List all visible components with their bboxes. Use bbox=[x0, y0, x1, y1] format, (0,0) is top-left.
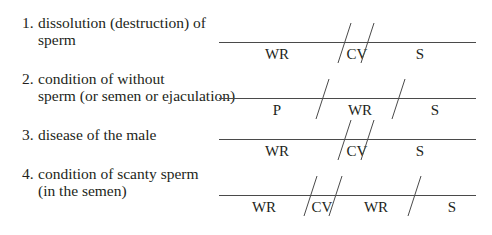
item-number: 4. bbox=[22, 166, 34, 182]
definition-line-2: (in the semen) bbox=[38, 183, 127, 200]
item-number: 3. bbox=[22, 127, 34, 143]
segment-word-root-2: WR bbox=[364, 199, 388, 215]
segment-suffix: S bbox=[431, 102, 439, 118]
definition-line-1: dissolution (destruction) of bbox=[38, 15, 206, 32]
segment-combining-vowel: CV bbox=[347, 143, 368, 159]
segment-word-root: WR bbox=[348, 102, 372, 118]
definition-line-1: condition of scanty sperm bbox=[38, 166, 199, 183]
item-number: 1. bbox=[22, 15, 34, 31]
definition-line-1: condition of without bbox=[38, 71, 165, 88]
segment-suffix: S bbox=[448, 199, 456, 215]
segment-combining-vowel: CV bbox=[347, 46, 368, 62]
segment-suffix: S bbox=[416, 143, 424, 159]
segment-prefix: P bbox=[273, 102, 281, 118]
segment-suffix: S bbox=[416, 46, 424, 62]
item-number: 2. bbox=[22, 71, 34, 87]
segment-word-root: WR bbox=[265, 46, 289, 62]
segment-word-root: WR bbox=[265, 143, 289, 159]
answer-line[interactable] bbox=[219, 139, 476, 140]
definition-line-2: sperm (or semen or ejaculation) bbox=[38, 88, 235, 105]
definition-line-1: disease of the male bbox=[38, 127, 156, 144]
segment-word-root: WR bbox=[252, 199, 276, 215]
segment-combining-vowel: CV bbox=[312, 199, 333, 215]
definition-line-2: sperm bbox=[38, 32, 76, 49]
answer-line[interactable] bbox=[219, 42, 476, 43]
answer-line[interactable] bbox=[219, 195, 476, 196]
answer-line[interactable] bbox=[219, 98, 476, 99]
